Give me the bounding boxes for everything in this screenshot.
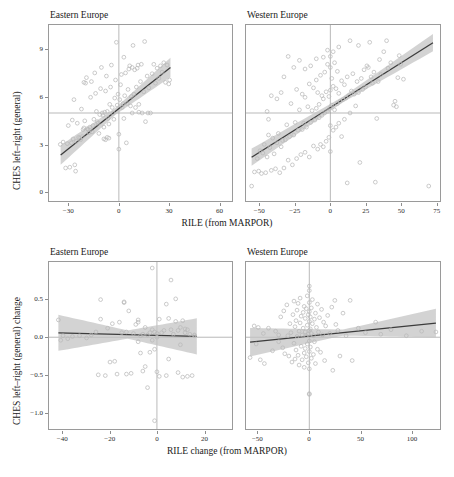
x-axis-label-top: RILE (from MARPOR): [0, 218, 454, 228]
data-point: [93, 71, 97, 75]
data-point: [92, 117, 96, 121]
data-point: [319, 73, 323, 77]
data-point: [113, 359, 117, 363]
data-point: [362, 68, 366, 72]
data-point: [85, 76, 89, 80]
data-point: [385, 39, 389, 43]
data-point: [73, 163, 77, 167]
x-tick-label: 0: [155, 435, 159, 443]
data-point: [393, 99, 397, 103]
data-point: [110, 106, 114, 110]
data-point: [143, 40, 147, 44]
plot-area-top-left: [49, 25, 232, 201]
data-point: [324, 139, 328, 143]
data-point: [337, 91, 341, 95]
data-point: [316, 147, 320, 151]
data-point: [307, 155, 311, 159]
data-point: [150, 266, 154, 270]
data-point: [124, 71, 128, 75]
data-point: [317, 102, 321, 106]
data-point: [324, 90, 328, 94]
data-point: [99, 317, 103, 321]
data-point: [116, 92, 120, 96]
data-point: [307, 82, 311, 86]
data-point: [265, 155, 269, 159]
data-point: [303, 150, 307, 154]
data-point: [129, 371, 133, 375]
data-point: [129, 104, 133, 108]
data-point: [321, 145, 325, 149]
data-point: [348, 39, 352, 43]
data-point: [126, 88, 130, 92]
data-point: [262, 362, 266, 366]
data-point: [372, 70, 376, 74]
y-tick-label: −0.5: [19, 371, 43, 379]
data-point: [320, 308, 324, 312]
data-point: [354, 104, 358, 108]
data-point: [293, 357, 297, 361]
y-tick-mark: [45, 337, 48, 338]
data-point: [295, 157, 299, 161]
data-point: [139, 80, 143, 84]
x-tick-mark: [68, 203, 69, 206]
data-point: [343, 83, 347, 87]
data-point: [299, 314, 303, 318]
data-point: [122, 117, 126, 121]
data-point: [373, 180, 377, 184]
data-point: [314, 311, 318, 315]
data-point: [167, 82, 171, 86]
data-point: [338, 354, 342, 358]
x-axis-label-bottom: RILE change (from MARPOR): [0, 446, 454, 456]
data-point: [287, 354, 291, 358]
x-tick-mark: [295, 203, 296, 206]
data-point: [139, 351, 143, 355]
data-point: [340, 135, 344, 139]
data-point: [70, 118, 74, 122]
data-point: [314, 362, 318, 366]
x-tick-mark: [259, 203, 260, 206]
x-tick-label: 25: [362, 207, 369, 215]
data-point: [169, 278, 173, 282]
data-point: [114, 40, 118, 44]
y-tick-mark: [45, 49, 48, 50]
data-point: [300, 92, 304, 96]
y-tick-label: 0.0: [19, 333, 43, 341]
data-point: [291, 163, 295, 167]
data-point: [285, 303, 289, 307]
x-tick-label: 0: [328, 207, 332, 215]
data-point: [174, 297, 178, 301]
data-point: [80, 107, 84, 111]
data-point: [143, 365, 147, 369]
x-tick-label: −50: [252, 435, 263, 443]
data-point: [357, 44, 361, 48]
data-point: [322, 320, 326, 324]
data-point: [137, 102, 141, 106]
data-point: [312, 353, 316, 357]
data-point: [275, 97, 279, 101]
data-point: [314, 106, 318, 110]
data-point: [340, 79, 344, 83]
data-point: [296, 353, 300, 357]
data-point: [299, 153, 303, 157]
data-point: [94, 91, 98, 95]
data-point: [272, 152, 276, 156]
data-point: [167, 317, 171, 321]
y-tick-mark: [45, 413, 48, 414]
data-point: [83, 119, 87, 123]
data-point: [333, 108, 337, 112]
data-point: [278, 171, 282, 175]
data-point: [127, 309, 131, 313]
data-point: [145, 74, 149, 78]
data-point: [269, 94, 273, 98]
data-point: [146, 386, 150, 390]
data-point: [296, 301, 300, 305]
data-point: [305, 294, 309, 298]
data-point: [99, 298, 103, 302]
data-point: [125, 372, 129, 376]
data-point: [326, 62, 330, 66]
y-tick-label: −1.0: [19, 409, 43, 417]
data-point: [75, 121, 79, 125]
data-point: [258, 358, 262, 362]
data-point: [274, 167, 278, 171]
data-point: [334, 323, 338, 327]
